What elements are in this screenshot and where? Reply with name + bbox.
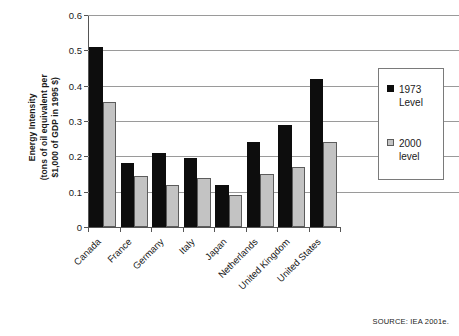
- bar-group: [246, 15, 278, 227]
- y-axis-tick-label: 0: [77, 222, 82, 233]
- bar-group: [214, 15, 246, 227]
- chart-figure: Energy Intensity (tons of oil equivalent…: [0, 0, 459, 336]
- x-axis-label: Canada: [71, 236, 102, 267]
- bar: [323, 142, 337, 227]
- x-axis-tick-mark: [120, 228, 121, 232]
- y-axis-tick-label: 0.2: [69, 151, 82, 162]
- y-axis-title: Energy Intensity (tons of oil equivalent…: [27, 17, 62, 237]
- y-axis-tick-label: 0.1: [69, 186, 82, 197]
- bar-group: [277, 15, 309, 227]
- bar: [260, 174, 274, 227]
- bar: [229, 195, 243, 227]
- bar-group: [183, 15, 215, 227]
- legend-label-1973-line2: Level: [399, 96, 443, 109]
- x-axis-tick-mark: [151, 228, 152, 232]
- legend-label-1973-line1: 1973: [399, 84, 421, 95]
- bar-group: [151, 15, 183, 227]
- x-axis-tick-mark: [340, 228, 341, 232]
- x-axis-label: Italy: [177, 236, 197, 256]
- legend-swatch-icon-2000: [387, 139, 394, 146]
- bar: [134, 176, 148, 227]
- bar-group: [88, 15, 120, 227]
- source-note: SOURCE: IEA 2001e.: [372, 317, 449, 326]
- y-axis-tick-label: 0.4: [69, 80, 82, 91]
- x-axis-tick-mark: [309, 228, 310, 232]
- bar: [166, 185, 180, 227]
- x-axis-tick-mark: [277, 228, 278, 232]
- legend-label-2000: 2000 level: [399, 137, 443, 163]
- x-axis-tick-mark: [246, 228, 247, 232]
- legend-entry-1973: 1973 Level: [387, 83, 443, 109]
- bar-group: [309, 15, 341, 227]
- bar: [292, 167, 306, 227]
- x-axis-label: Japan: [202, 236, 228, 262]
- legend-label-2000-line1: 2000: [399, 138, 421, 149]
- bar: [247, 142, 261, 227]
- legend-label-2000-line2: level: [399, 150, 443, 163]
- chart-legend: 1973 Level 2000 level: [378, 68, 444, 180]
- bar: [215, 185, 229, 227]
- bar: [184, 158, 198, 227]
- x-axis-tick-mark: [88, 228, 89, 232]
- x-axis-label: Germany: [130, 236, 165, 271]
- y-axis-tick-label: 0.6: [69, 10, 82, 21]
- bar: [103, 102, 117, 227]
- y-axis-title-line-2: (tons of oil equivalent per: [38, 74, 48, 180]
- bar: [89, 47, 103, 227]
- legend-swatch-icon-1973: [387, 85, 394, 92]
- legend-entry-2000: 2000 level: [387, 137, 443, 163]
- x-axis-tick-mark: [214, 228, 215, 232]
- bar: [278, 125, 292, 227]
- y-axis-title-line-3: $1,000 of GDP in 1995 $): [50, 77, 60, 178]
- bar: [197, 178, 211, 227]
- y-axis-title-line-1: Energy Intensity: [27, 93, 37, 161]
- x-axis-label: France: [105, 236, 134, 265]
- legend-label-1973: 1973 Level: [399, 83, 443, 109]
- y-axis-tick-label: 0.3: [69, 116, 82, 127]
- x-axis-tick-mark: [183, 228, 184, 232]
- bar-group: [120, 15, 152, 227]
- y-axis-tick-label: 0.5: [69, 45, 82, 56]
- bar: [310, 79, 324, 227]
- plot-area: 00.10.20.30.40.50.6: [88, 15, 340, 228]
- bar: [152, 153, 166, 227]
- bar: [121, 163, 135, 227]
